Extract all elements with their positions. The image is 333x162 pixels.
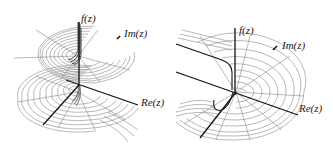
left-rez-label: Re(z) (141, 97, 164, 108)
left-imz-label: Im(z) (124, 28, 147, 39)
right-fz-label: f(z) (239, 25, 254, 36)
left-imag-axis-tick (117, 36, 120, 39)
left-fz-label: f(z) (81, 13, 96, 24)
right-axes (176, 28, 298, 138)
right-rez-label: Re(z) (299, 103, 322, 114)
right-imz-label: Im(z) (282, 40, 305, 51)
left-panel (14, 22, 138, 142)
left-upper-sheet-mesh (14, 26, 135, 83)
riemann-surface-figure (0, 0, 333, 162)
right-branch-curves (176, 44, 233, 110)
